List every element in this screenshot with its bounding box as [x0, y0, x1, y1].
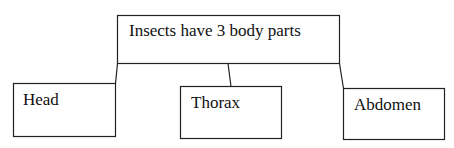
root-label: Insects have 3 body parts — [129, 21, 301, 41]
head-label: Head — [23, 90, 59, 110]
connector-abdomen — [340, 64, 344, 89]
abdomen-label: Abdomen — [354, 95, 421, 115]
connector-thorax — [228, 64, 231, 87]
connector-head — [116, 64, 118, 84]
thorax-label: Thorax — [191, 93, 240, 113]
